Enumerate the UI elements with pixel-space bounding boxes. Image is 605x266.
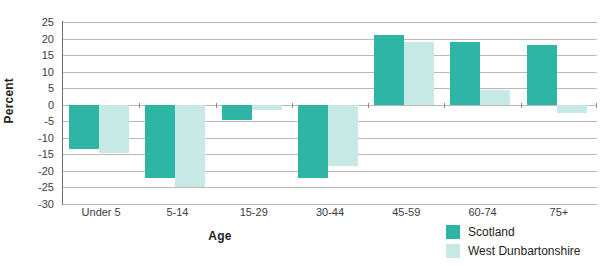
plot-area [63, 22, 597, 204]
y-tick--20: -20 [0, 165, 58, 176]
x-tick-label: 5-14 [166, 206, 188, 218]
legend: Scotland West Dunbartonshire [446, 222, 581, 260]
legend-item-west-dunbartonshire: West Dunbartonshire [446, 241, 581, 260]
bar-group [63, 22, 139, 204]
cropped-title-sliver [63, 0, 597, 2]
bar [145, 105, 175, 178]
bar-group [521, 22, 597, 204]
x-tick-label: 15-29 [240, 206, 268, 218]
bar [527, 45, 557, 105]
x-tick-label: 60-74 [468, 206, 496, 218]
legend-swatch-scotland [446, 225, 460, 239]
legend-swatch-west-dunbartonshire [446, 244, 460, 258]
bar [450, 42, 480, 105]
y-tick--30: -30 [0, 199, 58, 210]
bar [404, 42, 434, 105]
bar-group [139, 22, 215, 204]
bar [175, 105, 205, 188]
bar-group [292, 22, 368, 204]
y-tick--15: -15 [0, 149, 58, 160]
x-axis-title: Age [0, 229, 440, 243]
x-tick-label: 75+ [550, 206, 569, 218]
x-axis-tick-labels: Under 55-1415-2930-4445-5960-7475+ [63, 206, 597, 222]
y-tick-15: 15 [0, 50, 58, 61]
bar [298, 105, 328, 178]
x-tick-label: 45-59 [392, 206, 420, 218]
bar [557, 105, 587, 113]
bar-group [444, 22, 520, 204]
bar [374, 35, 404, 104]
bar [328, 105, 358, 166]
bar-group [368, 22, 444, 204]
y-tick-25: 25 [0, 17, 58, 28]
gridline--30 [63, 204, 597, 205]
legend-label-scotland: Scotland [468, 225, 515, 239]
bar [99, 105, 129, 153]
x-tick-label: 30-44 [316, 206, 344, 218]
y-tick-0: 0 [0, 99, 58, 110]
bar [69, 105, 99, 150]
x-tick-label: Under 5 [82, 206, 121, 218]
bar [252, 105, 282, 110]
bar-chart: Percent 2520151050-5-10-15-20-25-30 Unde… [0, 0, 605, 266]
y-axis-tick-labels: 2520151050-5-10-15-20-25-30 [0, 0, 58, 266]
y-tick-10: 10 [0, 66, 58, 77]
y-tick--25: -25 [0, 182, 58, 193]
y-tick-5: 5 [0, 83, 58, 94]
y-tick-20: 20 [0, 33, 58, 44]
bar [480, 90, 510, 105]
y-tick--5: -5 [0, 116, 58, 127]
y-tick--10: -10 [0, 132, 58, 143]
bar [222, 105, 252, 120]
bar-group [216, 22, 292, 204]
legend-label-west-dunbartonshire: West Dunbartonshire [468, 244, 581, 258]
legend-item-scotland: Scotland [446, 222, 581, 241]
